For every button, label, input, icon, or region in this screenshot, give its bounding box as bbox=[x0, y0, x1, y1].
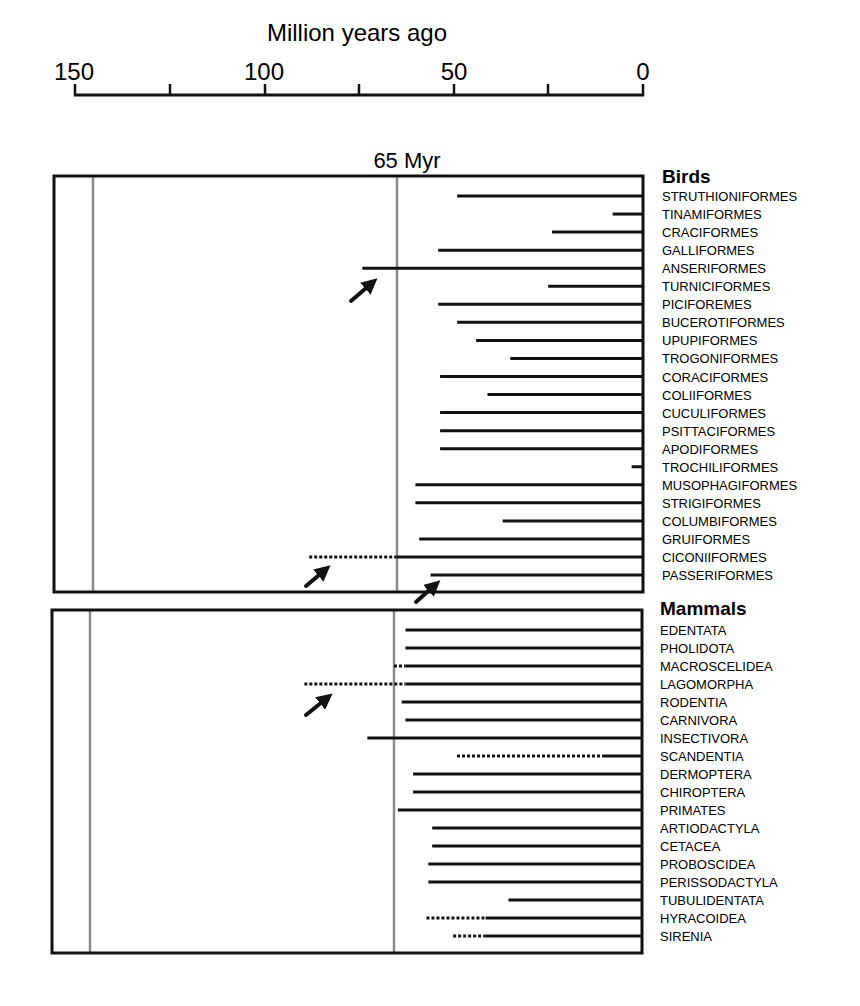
order-label: TROGONIFORMES bbox=[662, 351, 779, 366]
order-label: CORACIFORMES bbox=[662, 370, 769, 385]
order-label: PSITTACIFORMES bbox=[662, 424, 775, 439]
order-label: CICONIIFORMES bbox=[662, 550, 767, 565]
order-label: INSECTIVORA bbox=[660, 731, 748, 746]
order-label: CUCULIFORMES bbox=[662, 406, 766, 421]
order-label: PHOLIDOTA bbox=[660, 641, 734, 656]
arrow-icon bbox=[306, 570, 325, 586]
arrows bbox=[306, 283, 435, 715]
order-label: STRUTHIONIFORMES bbox=[662, 189, 797, 204]
mammals-title: Mammals bbox=[660, 598, 747, 619]
order-label: TROCHILIFORMES bbox=[662, 460, 779, 475]
axis-title: Million years ago bbox=[267, 19, 447, 46]
order-label: PASSERIFORMES bbox=[662, 568, 773, 583]
arrow-icon bbox=[306, 698, 327, 715]
birds-panel: Birds STRUTHIONIFORMESTINAMIFORMESCRACIF… bbox=[54, 166, 797, 592]
order-label: CETACEA bbox=[660, 839, 721, 854]
birds-frame bbox=[54, 176, 643, 592]
mammals-frame bbox=[52, 610, 642, 953]
order-label: PICIFOREMES bbox=[662, 297, 752, 312]
birds-bars bbox=[309, 196, 643, 575]
mammals-bars bbox=[304, 630, 642, 936]
order-label: STRIGIFORMES bbox=[662, 496, 761, 511]
mammals-labels: EDENTATAPHOLIDOTAMACROSCELIDEALAGOMORPHA… bbox=[660, 623, 778, 944]
tick-label-100: 100 bbox=[244, 58, 284, 85]
tick-label-150: 150 bbox=[54, 58, 94, 85]
order-label: BUCEROTIFORMES bbox=[662, 315, 785, 330]
tick-label-50: 50 bbox=[441, 58, 468, 85]
order-label: GRUIFORMES bbox=[662, 532, 750, 547]
order-label: CARNIVORA bbox=[660, 713, 738, 728]
arrow-icon bbox=[351, 283, 372, 301]
phylogeny-chart: Million years ago 150 100 50 0 65 Myr Bi… bbox=[0, 0, 860, 1006]
order-label: HYRACOIDEA bbox=[660, 911, 746, 926]
order-label: ANSERIFORMES bbox=[662, 261, 766, 276]
order-label: DERMOPTERA bbox=[660, 767, 752, 782]
order-label: CRACIFORMES bbox=[662, 225, 758, 240]
birds-labels: STRUTHIONIFORMESTINAMIFORMESCRACIFORMESG… bbox=[662, 189, 797, 583]
order-label: TURNICIFORMES bbox=[662, 279, 771, 294]
order-label: MUSOPHAGIFORMES bbox=[662, 478, 797, 493]
order-label: RODENTIA bbox=[660, 695, 728, 710]
order-label: MACROSCELIDEA bbox=[660, 659, 773, 674]
reference-line-label: 65 Myr bbox=[373, 148, 440, 173]
order-label: LAGOMORPHA bbox=[660, 677, 754, 692]
order-label: EDENTATA bbox=[660, 623, 727, 638]
order-label: COLIIFORMES bbox=[662, 388, 752, 403]
birds-title: Birds bbox=[662, 166, 711, 187]
time-axis: Million years ago 150 100 50 0 bbox=[54, 19, 650, 96]
order-label: CHIROPTERA bbox=[660, 785, 746, 800]
order-label: PERISSODACTYLA bbox=[660, 875, 778, 890]
order-label: PRIMATES bbox=[660, 803, 726, 818]
mammals-panel: Mammals EDENTATAPHOLIDOTAMACROSCELIDEALA… bbox=[52, 598, 778, 953]
order-label: PROBOSCIDEA bbox=[660, 857, 756, 872]
order-label: ARTIODACTYLA bbox=[660, 821, 760, 836]
order-label: SCANDENTIA bbox=[660, 749, 744, 764]
order-label: COLUMBIFORMES bbox=[662, 514, 777, 529]
order-label: TINAMIFORMES bbox=[662, 207, 762, 222]
tick-label-0: 0 bbox=[636, 58, 649, 85]
order-label: GALLIFORMES bbox=[662, 243, 755, 258]
order-label: APODIFORMES bbox=[662, 442, 758, 457]
order-label: UPUPIFORMES bbox=[662, 333, 758, 348]
order-label: SIRENIA bbox=[660, 929, 712, 944]
order-label: TUBULIDENTATA bbox=[660, 893, 764, 908]
